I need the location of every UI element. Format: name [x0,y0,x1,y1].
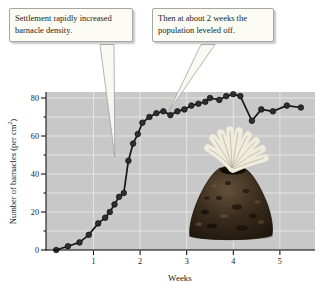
x-tick-label: 1 [91,257,95,266]
y-tick-label: 20 [31,208,39,217]
data-point [121,190,127,196]
data-point [217,97,223,103]
data-point [130,141,136,147]
y-axis-title-superscript: 2 [7,122,13,125]
data-point [102,215,108,221]
x-tick-label: 4 [231,257,235,266]
data-point [182,107,188,113]
data-point [249,118,255,124]
y-axis-title-main: Number of barnacles (per cm [8,125,18,225]
x-tick-label: 5 [278,257,282,266]
data-point [224,93,230,99]
data-point [161,109,167,115]
x-tick-label: 3 [185,257,189,266]
data-point [284,103,290,109]
data-point [203,99,209,105]
x-axis-title: Weeks [168,273,192,283]
callout-settlement-increase: Settlement rapidly increased barnacle de… [9,8,133,42]
y-tick-label: 40 [31,170,39,179]
data-point [135,131,141,137]
data-point [175,109,181,115]
y-tick-label: 80 [31,94,39,103]
data-point [231,91,237,97]
callout-population-leveled: Then at about 2 weeks the population lev… [152,8,274,42]
y-axis-title-close: ) [8,119,18,122]
data-point [207,95,213,101]
data-point [238,93,244,99]
data-point [112,202,118,208]
data-point [107,209,113,215]
data-point [154,110,160,116]
data-point [116,194,122,200]
data-point [189,103,195,109]
data-point [270,109,276,115]
data-point [168,112,174,118]
data-point [65,243,71,249]
figure-barnacle-logistic-growth: 02040608012345 Weeks Number of barnacles… [0,0,320,293]
data-point [259,107,265,113]
y-tick-label: 60 [31,132,39,141]
data-point [298,105,304,111]
data-point [147,114,153,120]
data-point [95,221,101,227]
data-point [86,232,92,238]
callout-settlement-increase-text: Settlement rapidly increased barnacle de… [15,13,112,35]
plot-area-background [46,92,315,250]
chart-plot: 02040608012345 Weeks [0,0,320,293]
data-point [126,158,132,164]
x-tick-label: 2 [138,257,142,266]
data-point [196,101,202,107]
data-point [140,120,146,126]
callout-population-leveled-text: Then at about 2 weeks the population lev… [158,13,247,35]
y-axis-title: Number of barnacles (per cm2) [7,92,18,251]
y-tick-label: 0 [35,246,39,255]
data-point [77,240,83,246]
